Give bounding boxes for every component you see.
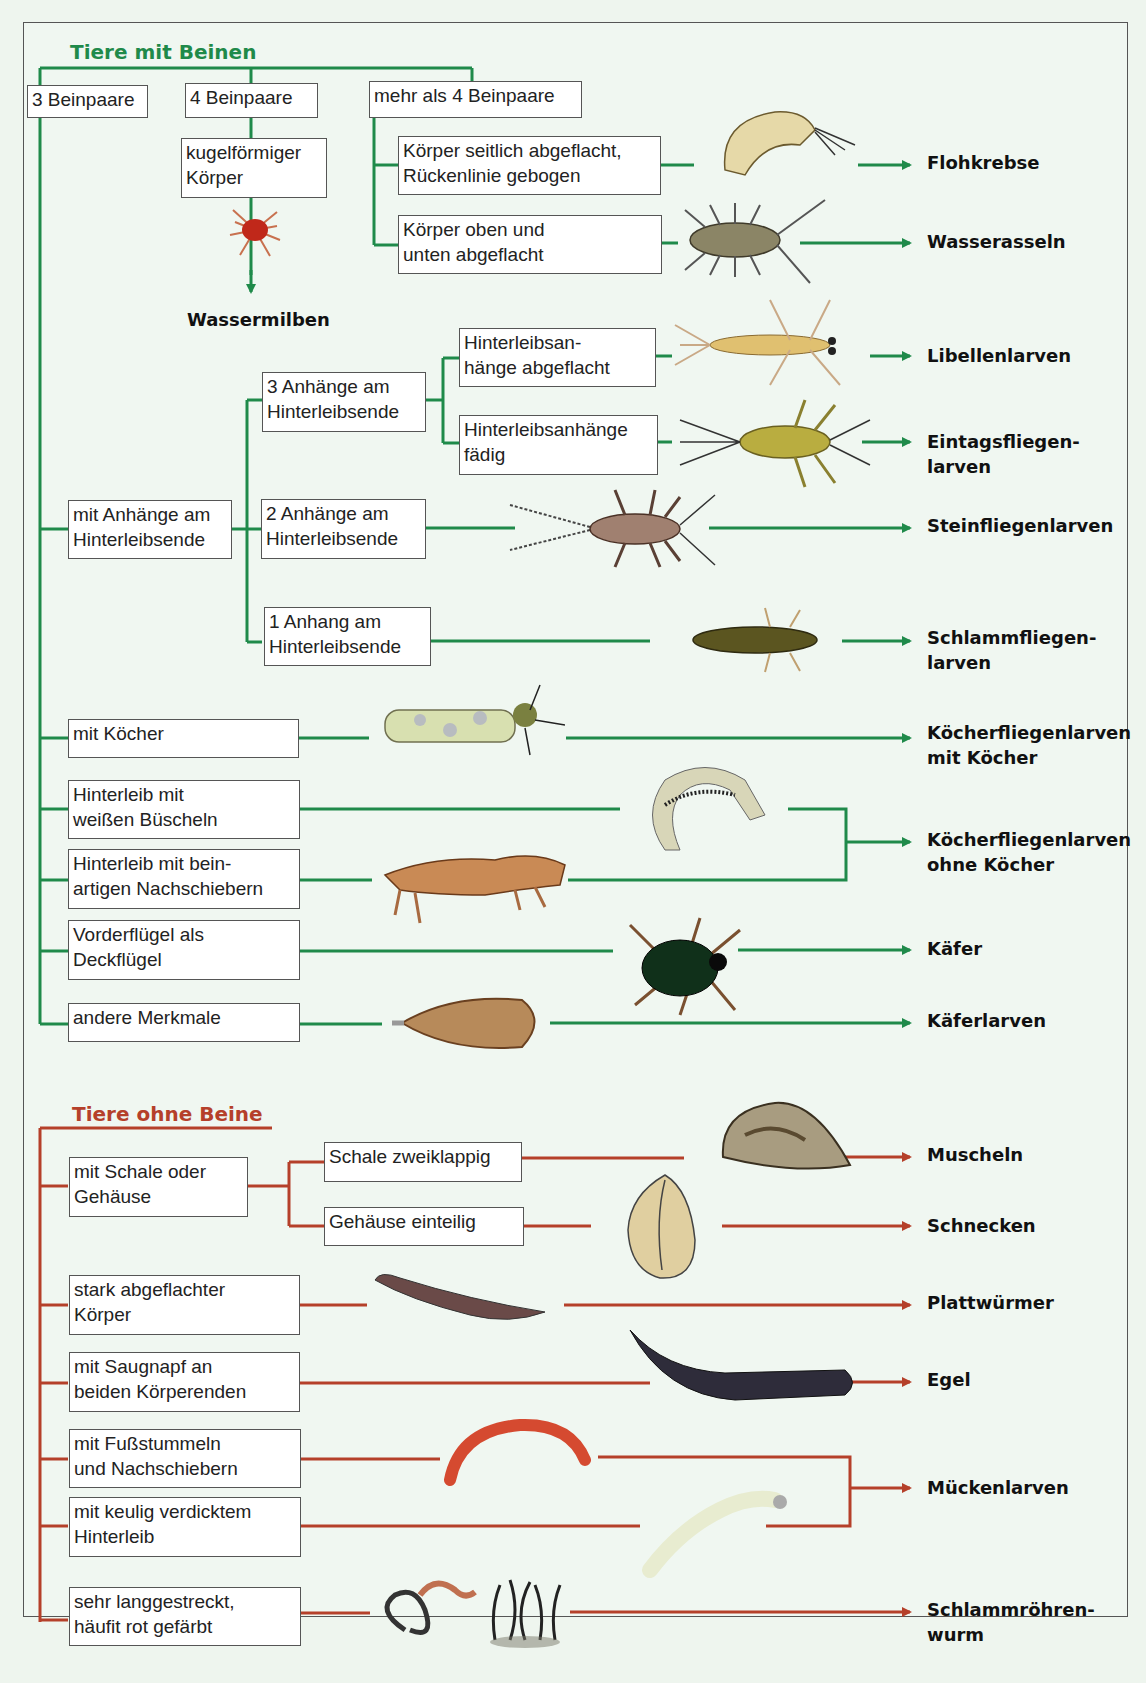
box-4-beinpaare: 4 Beinpaare [185, 83, 318, 118]
box-schale-zweiklappig: Schale zweiklappig [324, 1142, 522, 1182]
box-kugelfoermiger-koerper: kugelförmiger Körper [181, 138, 327, 198]
box-mit-anhaenge: mit Anhänge am Hinterleibsende [68, 500, 232, 559]
box-koerper-oben-unten-abgeflacht: Körper oben und unten abgeflacht [398, 215, 662, 274]
caddisfly-larva-icon [635, 755, 785, 865]
mussel-icon [715, 1095, 860, 1175]
box-andere-merkmale: andere Merkmale [68, 1003, 300, 1042]
stonefly-larva-icon [505, 485, 725, 570]
leech-icon [625, 1325, 865, 1405]
box-nachschieber: Hinterleib mit bein- artigen Nachschiebe… [68, 849, 300, 909]
box-1-anhang: 1 Anhang am Hinterleibsende [264, 607, 431, 666]
box-3-anhaenge: 3 Anhänge am Hinterleibsende [262, 372, 426, 432]
beetle-larva-legs-icon [375, 835, 575, 925]
box-keulig: mit keulig verdicktem Hinterleib [69, 1497, 301, 1557]
result-wassermilben: Wassermilben [187, 307, 330, 332]
box-hinterleibsanhaenge-abgeflacht: Hinterleibsan- hänge abgeflacht [459, 328, 656, 387]
box-hinterleibsanhaenge-faedig: Hinterleibsanhänge fädig [459, 415, 658, 475]
box-gehaeuse-einteilig: Gehäuse einteilig [324, 1207, 524, 1246]
bloodworm-icon [440, 1415, 600, 1495]
box-2-anhaenge: 2 Anhänge am Hinterleibsende [261, 499, 426, 559]
box-schale-oder-gehaeuse: mit Schale oder Gehäuse [69, 1157, 248, 1217]
box-stark-abgeflachter-koerper: stark abgeflachter Körper [69, 1275, 300, 1335]
box-weisse-bueschel: Hinterleib mit weißen Büscheln [68, 780, 300, 839]
heading-tiere-mit-beinen: Tiere mit Beinen [70, 40, 256, 64]
result-egel: Egel [927, 1367, 971, 1392]
tubifex-icon [375, 1570, 575, 1650]
result-schnecken: Schnecken [927, 1213, 1036, 1238]
amphipod-icon [705, 100, 865, 185]
beetle-icon [610, 910, 750, 1020]
box-langgestreckt: sehr langgestreckt, häufit rot gefärbt [69, 1587, 301, 1646]
result-steinfliegenlarven: Steinfliegenlarven [927, 513, 1113, 538]
mayfly-larva-icon [675, 395, 875, 490]
result-muscheln: Muscheln [927, 1142, 1023, 1167]
snail-icon [620, 1170, 710, 1285]
box-3-beinpaare: 3 Beinpaare [27, 85, 148, 118]
box-fussstummeln: mit Fußstummeln und Nachschiebern [69, 1429, 301, 1488]
result-wasserasseln: Wasserasseln [927, 229, 1066, 254]
water-mite-icon [225, 200, 285, 260]
box-mit-koecher: mit Köcher [68, 719, 299, 758]
dragonfly-larva-icon [670, 295, 870, 390]
flatworm-icon [370, 1270, 550, 1330]
heading-tiere-ohne-beine: Tiere ohne Beine [72, 1102, 263, 1126]
result-schlammfliegenlarven: Schlammfliegen- larven [927, 625, 1096, 675]
beetle-larva-icon [392, 985, 552, 1055]
box-koerper-seitlich-abgeflacht: Körper seitlich abgeflacht, Rückenlinie … [398, 136, 661, 195]
result-mueckenlarven: Mückenlarven [927, 1475, 1069, 1500]
result-flohkrebse: Flohkrebse [927, 150, 1040, 175]
water-louse-icon [665, 195, 835, 285]
result-koecherfliegenlarven-mit-koecher: Köcherfliegenlarven mit Köcher [927, 720, 1131, 770]
box-deckfluegel: Vorderflügel als Deckflügel [68, 920, 300, 980]
alderfly-larva-icon [680, 605, 830, 675]
result-schlammroehrenwurm: Schlammröhren- wurm [927, 1597, 1095, 1647]
result-kaeferlarven: Käferlarven [927, 1008, 1046, 1033]
caddisfly-larva-with-case-icon [380, 680, 565, 760]
result-eintagsfliegenlarven: Eintagsfliegen- larven [927, 429, 1080, 479]
box-mehr-als-4-beinpaare: mehr als 4 Beinpaare [369, 81, 582, 118]
result-plattwuermer: Plattwürmer [927, 1290, 1054, 1315]
box-saugnapf: mit Saugnapf an beiden Körperenden [69, 1352, 300, 1412]
result-kaefer: Käfer [927, 936, 982, 961]
result-koecherfliegenlarven-ohne-koecher: Köcherfliegenlarven ohne Köcher [927, 827, 1131, 877]
midge-larva-icon [640, 1480, 800, 1580]
result-libellenlarven: Libellenlarven [927, 343, 1071, 368]
